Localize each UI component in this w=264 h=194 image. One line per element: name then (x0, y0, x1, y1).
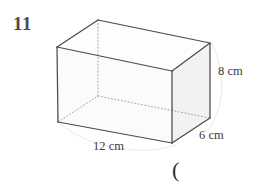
stray-parenthesis-mark: ( (172, 157, 179, 183)
cuboid-drawing (0, 0, 264, 194)
dimension-label-depth: 6 cm (199, 128, 224, 142)
problem-number: 11 (13, 14, 32, 34)
dimension-label-width: 12 cm (93, 139, 124, 153)
dimension-label-height: 8 cm (218, 64, 243, 78)
geometry-figure-canvas: 11 8 cm 6 cm 12 cm ( (0, 0, 264, 194)
